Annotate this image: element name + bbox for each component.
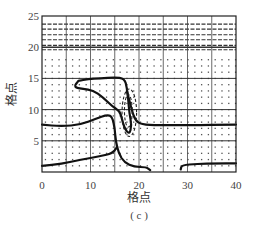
- x-tick-label: 10: [85, 179, 97, 191]
- y-tick-label: 25: [28, 10, 40, 22]
- contour-chart: 010203040 510152025 格点 格点 ( c ): [0, 0, 256, 228]
- y-tick-label: 10: [28, 104, 40, 116]
- y-axis-ticks: 510152025: [28, 10, 40, 147]
- x-tick-label: 30: [182, 179, 194, 191]
- x-axis-label: 格点: [127, 190, 151, 205]
- x-axis-ticks: 010203040: [39, 179, 242, 191]
- x-tick-label: 40: [231, 179, 243, 191]
- figure-caption: ( c ): [130, 209, 148, 222]
- left-middle-contour: [42, 115, 150, 170]
- y-tick-label: 5: [34, 135, 40, 147]
- right-middle-contour: [127, 91, 236, 125]
- y-tick-label: 15: [28, 72, 40, 84]
- y-axis-label: 格点: [4, 82, 19, 106]
- x-tick-label: 20: [134, 179, 146, 191]
- y-tick-label: 20: [28, 41, 40, 53]
- x-tick-label: 0: [39, 179, 45, 191]
- bottom-left-contour: [42, 147, 117, 166]
